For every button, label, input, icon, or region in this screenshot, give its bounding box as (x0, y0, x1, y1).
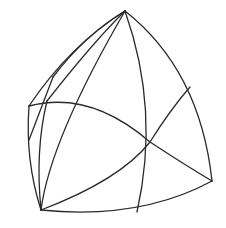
outer-bottom-edge (41, 181, 212, 212)
figure-canvas (0, 0, 226, 228)
inner-diagonal-73 (41, 11, 125, 210)
inner-upper-left-arc (53, 11, 125, 77)
inner-vertical-left (39, 101, 47, 210)
lower-diagonal (41, 87, 190, 210)
curved-tetrahedron-diagram (0, 0, 226, 228)
central-meridian (125, 11, 146, 212)
inner-arc-47 (47, 11, 125, 101)
